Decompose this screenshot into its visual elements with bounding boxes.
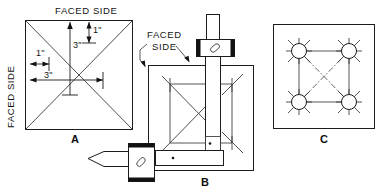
panel-c-hole-bottom-left [286, 89, 312, 115]
panel-c-hole-top-left [286, 38, 312, 64]
panel-b-top-clamp-jaw-right [231, 40, 235, 57]
panel-b-figure-label: B [201, 176, 209, 188]
panel-a: FACED SIDE FACED SIDE 3" 1" [5, 5, 133, 145]
panel-a-dim-1in-horizontal-text: 1" [36, 48, 45, 58]
panel-c: C [274, 25, 375, 146]
panel-b-bottom-clamp-jaw-bottom [129, 178, 155, 182]
panel-b-punch-mark-lower [172, 157, 175, 160]
panel-b-bottom-clamp-jaw-top [129, 144, 155, 148]
panel-a-dim-1in-vertical-text: 1" [93, 25, 102, 35]
panel-a-top-faced-side-label: FACED SIDE [55, 5, 118, 16]
panel-c-figure-label: C [320, 133, 328, 145]
panel-c-hole-top-right [336, 38, 362, 64]
figure-root: FACED SIDE FACED SIDE 3" 1" [0, 0, 389, 193]
panel-a-figure-label: A [71, 133, 79, 145]
panel-c-hole-bottom-right [336, 89, 362, 115]
panel-b-leader-label-line2: SIDE [152, 41, 177, 52]
panel-b-top-clamp-jaw-left [197, 40, 201, 57]
panel-b-vertical-strap [206, 53, 221, 151]
technical-diagram: FACED SIDE FACED SIDE 3" 1" [0, 0, 389, 193]
panel-a-left-faced-side-label: FACED SIDE [5, 66, 16, 129]
panel-b-punch-plate-upper [206, 137, 221, 151]
panel-b-leader-label-line1: FACED [147, 29, 182, 40]
panel-b-punch-mark-upper [209, 142, 212, 145]
panel-a-dim-3in-vertical-text: 3" [73, 40, 82, 50]
panel-b-bottom-bar [156, 151, 224, 166]
panel-b-tapered-strap [88, 152, 130, 167]
panel-a-dim-3in-horizontal-text: 3" [44, 70, 53, 80]
